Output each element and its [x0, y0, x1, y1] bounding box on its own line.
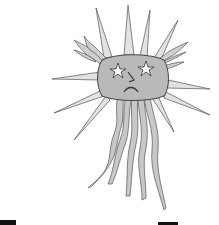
sun-face [98, 55, 169, 101]
wavy-hanging-rays [88, 96, 166, 210]
face-shape [98, 55, 169, 101]
cut-off-text-right [158, 222, 178, 225]
cut-off-text-left [0, 220, 16, 225]
sad-sun-illustration [0, 0, 219, 225]
